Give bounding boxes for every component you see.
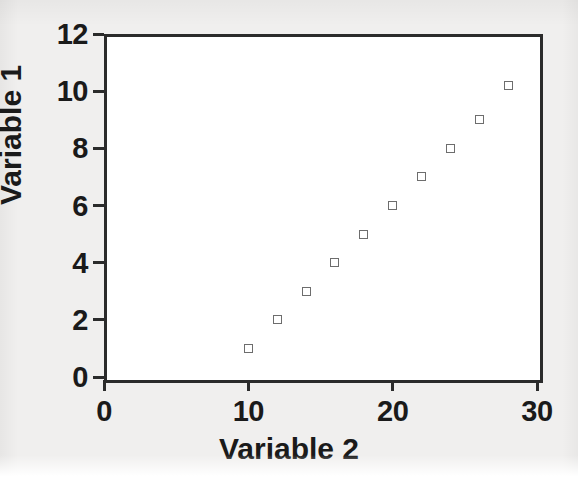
y-axis-tick-label: 12	[57, 18, 88, 51]
data-point	[417, 172, 426, 181]
y-axis-tick-label: 2	[72, 303, 88, 336]
scatter-plot-figure: 024681012 0102030 Variable 1 Variable 2	[0, 0, 578, 489]
y-axis-tick-label: 8	[72, 132, 88, 165]
x-axis-tick-label: 10	[233, 395, 264, 428]
y-axis-title: Variable 1	[0, 65, 28, 205]
y-axis-tick-mark	[93, 90, 104, 93]
y-axis-tick-mark	[93, 204, 104, 207]
y-axis-tick-mark	[93, 33, 104, 36]
data-point	[388, 201, 397, 210]
data-point	[244, 344, 253, 353]
x-axis-tick-label: 20	[377, 395, 408, 428]
data-point	[273, 315, 282, 324]
x-axis-tick-label: 0	[96, 395, 112, 428]
y-axis-tick-mark	[93, 376, 104, 379]
data-point	[330, 258, 339, 267]
y-axis-tick-label: 10	[57, 75, 88, 108]
data-point	[446, 144, 455, 153]
y-axis-tick-mark	[93, 261, 104, 264]
data-point	[302, 287, 311, 296]
data-point	[504, 81, 513, 90]
y-axis-tick-mark	[93, 318, 104, 321]
x-axis-title: Variable 2	[0, 432, 578, 466]
y-axis-tick-label: 6	[72, 189, 88, 222]
data-point	[475, 115, 484, 124]
y-axis-tick-label: 4	[72, 246, 88, 279]
data-point	[359, 230, 368, 239]
x-axis-tick-label: 30	[521, 395, 552, 428]
y-axis-tick-mark	[93, 147, 104, 150]
y-axis-tick-label: 0	[72, 361, 88, 394]
plot-area	[104, 34, 537, 377]
